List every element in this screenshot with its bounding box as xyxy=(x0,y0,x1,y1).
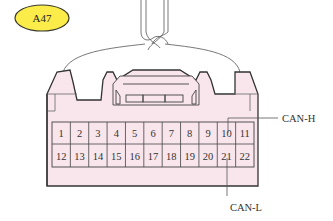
pin-14: 14 xyxy=(93,151,104,162)
wire-to-right xyxy=(165,44,240,72)
pin-1: 1 xyxy=(59,128,64,139)
pin-10: 10 xyxy=(221,128,232,139)
pin-21: 21 xyxy=(221,151,232,162)
can-l-label: CAN-L xyxy=(230,202,262,213)
connector-body: 12345678910111213141516171819202122 xyxy=(47,70,258,186)
pin-9: 9 xyxy=(205,128,210,139)
pin-16: 16 xyxy=(129,151,140,162)
pin-13: 13 xyxy=(74,151,85,162)
wire-harness xyxy=(63,0,240,72)
pin-19: 19 xyxy=(184,151,195,162)
pin-6: 6 xyxy=(150,128,155,139)
pin-4: 4 xyxy=(114,128,120,139)
badge-label: A47 xyxy=(33,12,52,24)
wire-to-left xyxy=(63,44,145,72)
pin-2: 2 xyxy=(77,128,82,139)
pin-5: 5 xyxy=(132,128,137,139)
pin-3: 3 xyxy=(95,128,100,139)
pin-8: 8 xyxy=(187,128,192,139)
pin-17: 17 xyxy=(148,151,159,162)
connector-diagram: A47 12345678 xyxy=(0,0,333,221)
connector-id-badge: A47 xyxy=(15,5,69,31)
pin-20: 20 xyxy=(203,151,214,162)
pin-22: 22 xyxy=(240,151,251,162)
wire-twist-3 xyxy=(148,32,164,50)
pin-18: 18 xyxy=(166,151,177,162)
latch xyxy=(113,76,199,105)
pin-11: 11 xyxy=(240,128,250,139)
pin-7: 7 xyxy=(169,128,174,139)
pin-12: 12 xyxy=(56,151,67,162)
can-h-label: CAN-H xyxy=(282,113,316,124)
pin-15: 15 xyxy=(111,151,122,162)
